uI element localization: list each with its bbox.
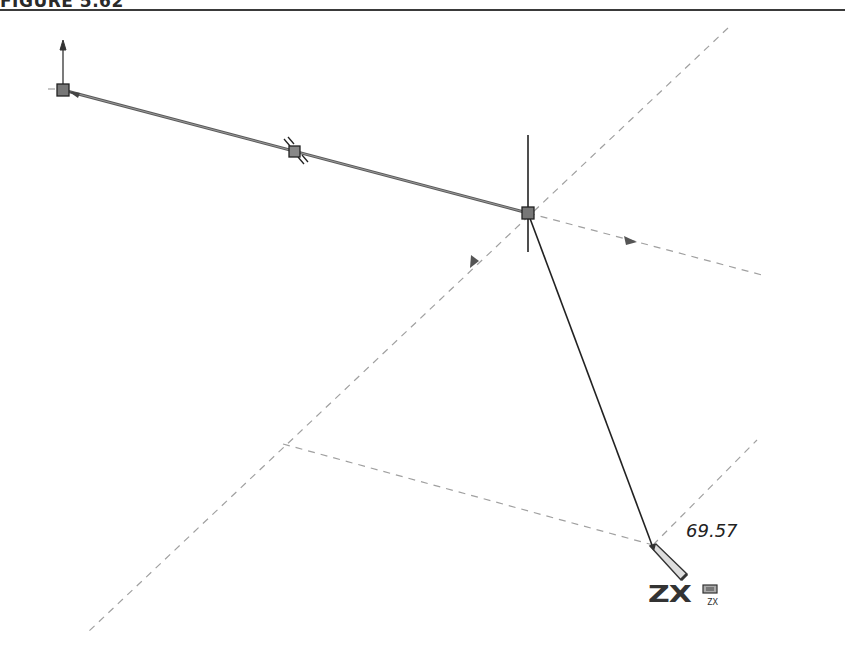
construction-lines [48,28,762,632]
dimension-value: 69.57 [686,520,738,541]
direction-arrow-icon-2 [470,255,479,268]
direction-arrow-icon [624,236,637,245]
cursor-plane-label: ZX [648,581,691,607]
construction-diagonal-main [88,28,728,632]
origin-arrow-icon [60,40,66,90]
cursor-plane-sublabel: ZX [707,597,718,607]
pencil-cursor-icon [650,544,687,580]
construction-horizontal-extension [528,213,762,275]
sketch-canvas[interactable] [0,0,849,655]
plane-indicator-icon [703,585,717,593]
sketch-point-intersection[interactable] [522,207,534,219]
origin-point-arrow [68,91,80,98]
sketch-point-origin[interactable] [57,84,69,96]
active-sketch-line[interactable] [528,213,652,545]
construction-offset-line [283,444,653,545]
sketch-point-midpoint[interactable] [289,146,300,157]
